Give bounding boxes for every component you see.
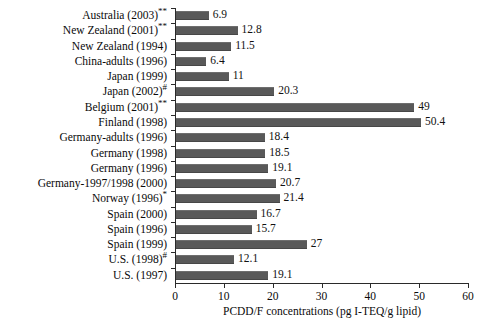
- y-axis-tick: [171, 207, 175, 208]
- bar: [175, 26, 238, 35]
- bar-row: 6.9: [175, 8, 468, 23]
- category-label: U.S. (1997): [0, 268, 171, 283]
- x-axis-tick: [419, 283, 420, 288]
- y-axis-tick: [171, 39, 175, 40]
- x-axis-tick: [322, 283, 323, 288]
- bar: [175, 240, 307, 249]
- bar-row: 20.7: [175, 176, 468, 191]
- y-axis-tick: [171, 69, 175, 70]
- bar-value-label: 49: [418, 99, 430, 114]
- y-axis-tick: [171, 222, 175, 223]
- bar-value-label: 50.4: [425, 114, 445, 129]
- x-axis-tick-label: 50: [413, 290, 425, 302]
- bar: [175, 133, 265, 142]
- x-axis-tick: [273, 283, 274, 288]
- bar-row: 49: [175, 100, 468, 115]
- bar: [175, 271, 268, 280]
- bar-value-label: 12.8: [242, 22, 262, 37]
- bar-value-label: 19.1: [272, 267, 292, 282]
- y-axis-tick: [171, 8, 175, 9]
- y-axis-tick: [171, 252, 175, 253]
- bar: [175, 225, 252, 234]
- bar: [175, 255, 234, 264]
- category-label: Japan (2002)#: [0, 84, 171, 99]
- bar-row: 6.4: [175, 54, 468, 69]
- y-axis-tick: [171, 161, 175, 162]
- x-axis-tick-label: 10: [218, 290, 230, 302]
- y-axis-tick: [171, 237, 175, 238]
- x-axis-line: 0102030405060: [175, 283, 469, 284]
- bar: [175, 164, 268, 173]
- bar: [175, 42, 231, 51]
- bar-row: 21.4: [175, 191, 468, 206]
- bar-value-label: 6.4: [210, 53, 224, 68]
- y-axis-tick: [171, 100, 175, 101]
- bar-row: 11.5: [175, 39, 468, 54]
- bar: [175, 11, 209, 20]
- y-axis-tick: [171, 176, 175, 177]
- bar-row: 50.4: [175, 115, 468, 130]
- bar-row: 19.1: [175, 161, 468, 176]
- x-axis-tick: [370, 283, 371, 288]
- x-axis-title: PCDD/F concentrations (pg I-TEQ/g lipid): [175, 305, 469, 317]
- bar-value-label: 11: [233, 68, 244, 83]
- category-label: Norway (1996)*: [0, 191, 171, 206]
- x-axis-tick-label: 60: [462, 290, 474, 302]
- y-axis-tick: [171, 115, 175, 116]
- bar-value-label: 18.5: [269, 145, 289, 160]
- bar: [175, 57, 206, 66]
- y-axis-tick: [171, 130, 175, 131]
- x-axis-tick-label: 30: [316, 290, 328, 302]
- bar-row: 16.7: [175, 207, 468, 222]
- x-axis-tick: [175, 283, 176, 288]
- category-axis-labels: Australia (2003)**New Zealand (2001)**Ne…: [0, 8, 171, 283]
- x-axis-tick: [224, 283, 225, 288]
- plot-area: 6.912.811.56.41120.34950.418.418.519.120…: [175, 8, 468, 283]
- bar: [175, 103, 414, 112]
- bar-row: 18.4: [175, 130, 468, 145]
- category-label: Germany (1998): [0, 146, 171, 161]
- bar-row: 11: [175, 69, 468, 84]
- category-label: Germany-adults (1996): [0, 130, 171, 145]
- category-label: Germany-1997/1998 (2000): [0, 176, 171, 191]
- bar-value-label: 20.7: [280, 175, 300, 190]
- bar-value-label: 27: [311, 236, 323, 251]
- bar-value-label: 20.3: [278, 83, 298, 98]
- category-label: Finland (1998): [0, 115, 171, 130]
- category-label: New Zealand (1994): [0, 39, 171, 54]
- bar: [175, 87, 274, 96]
- bar-value-label: 12.1: [238, 251, 258, 266]
- y-axis-tick: [171, 23, 175, 24]
- bar-row: 12.8: [175, 23, 468, 38]
- bar-value-label: 6.9: [213, 7, 227, 22]
- y-axis-tick: [171, 146, 175, 147]
- x-axis-tick-label: 0: [172, 290, 178, 302]
- bar-row: 19.1: [175, 268, 468, 283]
- bar: [175, 179, 276, 188]
- category-label: Spain (2000): [0, 207, 171, 222]
- bar-value-label: 18.4: [269, 129, 289, 144]
- bar: [175, 118, 421, 127]
- x-axis-tick-label: 40: [365, 290, 377, 302]
- x-axis-tick: [468, 283, 469, 288]
- bar-row: 15.7: [175, 222, 468, 237]
- category-label: Germany (1996): [0, 161, 171, 176]
- category-label: China-adults (1996): [0, 54, 171, 69]
- y-axis-tick: [171, 191, 175, 192]
- bar-row: 20.3: [175, 84, 468, 99]
- y-axis-tick: [171, 84, 175, 85]
- category-label: Spain (1996): [0, 222, 171, 237]
- category-label: U.S. (1998)#: [0, 252, 171, 267]
- category-label: Japan (1999): [0, 69, 171, 84]
- category-label: Spain (1999): [0, 237, 171, 252]
- y-axis-tick: [171, 268, 175, 269]
- bar: [175, 149, 265, 158]
- y-axis-line: [175, 8, 176, 283]
- bar-row: 12.1: [175, 252, 468, 267]
- bar-value-label: 15.7: [256, 221, 276, 236]
- y-axis-tick: [171, 54, 175, 55]
- bar: [175, 72, 229, 81]
- bar: [175, 210, 257, 219]
- bar-value-label: 19.1: [272, 160, 292, 175]
- category-label: Belgium (2001)**: [0, 100, 171, 115]
